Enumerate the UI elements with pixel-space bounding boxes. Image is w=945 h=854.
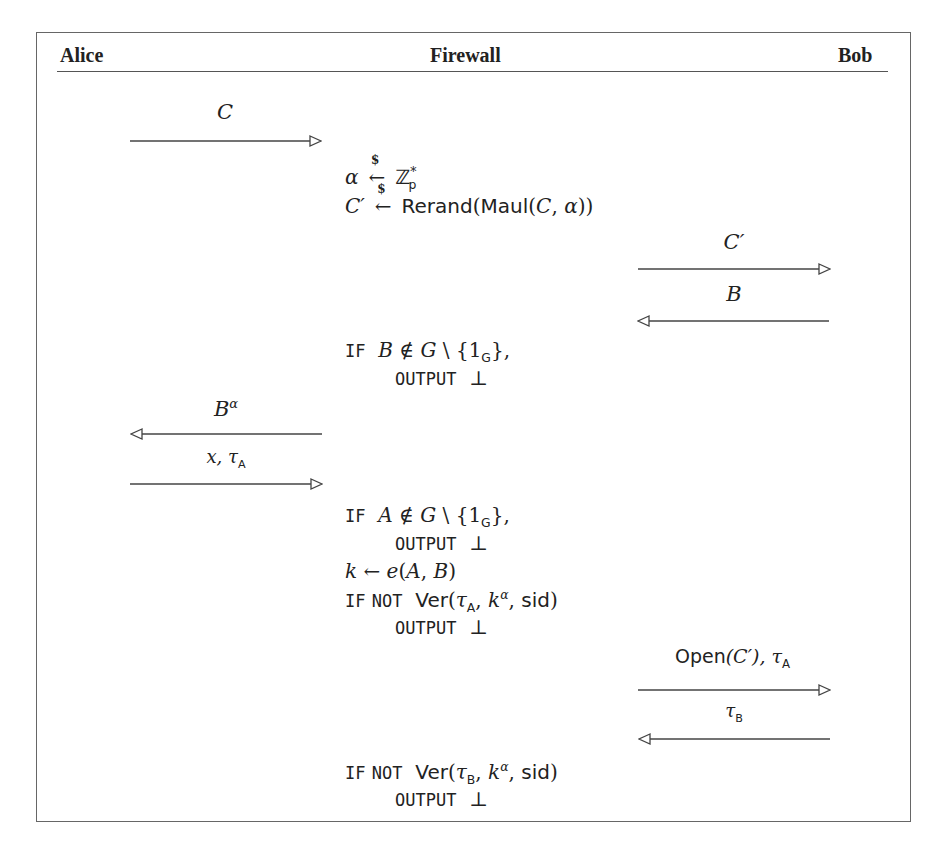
message-label-Cprime: C′ [638,230,830,254]
firewall-check-A: IF A ∉ G \ {1G}, [345,503,510,530]
party-alice: Alice [60,44,103,67]
message-label-x-tauA: x, τA [130,446,322,471]
firewall-verify-tauA: IF NOT Ver(τA, kα, sid) [345,587,558,615]
arrow-left-icon [637,315,830,327]
message-label-tauB: τB [638,700,830,725]
firewall-output-bottom: OUTPUT ⊥ [345,531,488,555]
header-rule [57,71,888,72]
message-label-open: Open(C′), τA [630,645,835,671]
firewall-verify-tauB: IF NOT Ver(τB, kα, sid) [345,759,558,787]
arrow-left-icon [638,733,831,745]
message-label-C: C [130,100,320,124]
message-label-B: B [638,282,830,306]
message-label-B-alpha: Bα [130,396,322,421]
arrow-right-icon [130,135,322,147]
arrow-right-icon [638,684,831,696]
firewall-compute-k: k ← e(A, B) [345,559,456,583]
arrow-left-icon [130,428,323,440]
party-firewall: Firewall [430,44,501,67]
firewall-output-bottom: OUTPUT ⊥ [345,615,488,639]
party-bob: Bob [838,44,872,67]
arrow-right-icon [638,263,831,275]
firewall-output-bottom: OUTPUT ⊥ [345,366,488,390]
firewall-output-bottom: OUTPUT ⊥ [345,787,488,811]
arrow-right-icon [130,478,323,490]
firewall-check-B: IF B ∉ G \ {1G}, [345,338,510,365]
firewall-sample-cprime: C′ $ ← Rerand(Maul(C, α)) [345,194,593,218]
